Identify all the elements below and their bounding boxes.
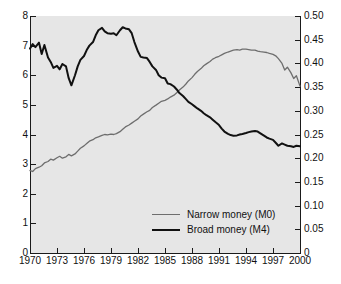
x-axis-tick [30,248,31,253]
y-axis-right-tick [295,135,300,136]
x-axis-tick [219,248,220,253]
legend-line-broad-money-icon [152,229,180,231]
legend-label-narrow-money: Narrow money (M0) [187,209,275,220]
y-axis-left-tick-label: 3 [22,159,28,169]
y-axis-right-tick-label: 0.45 [304,35,323,45]
y-axis-left-tick [31,223,36,224]
y-axis-left-tick-label: 2 [22,189,28,199]
y-axis-left-tick-label: 4 [22,130,28,140]
x-axis-tick [138,248,139,253]
y-axis-right-tick-label: 0.50 [304,11,323,21]
y-axis-right-tick [295,87,300,88]
y-axis-right-tick-label: 0.05 [304,224,323,234]
x-axis-line [30,253,301,254]
x-axis-tick [111,248,112,253]
y-axis-right-tick-label: 0.15 [304,177,323,187]
x-axis-tick [300,248,301,253]
y-axis-right-tick [295,111,300,112]
y-axis-right-tick [295,40,300,41]
y-axis-right-tick-label: 0.40 [304,58,323,68]
chart-figure: 012345678 00.050.100.150.200.250.300.350… [0,0,341,284]
y-axis-left-tick [31,194,36,195]
y-axis-left-tick-label: 7 [22,41,28,51]
y-axis-right-tick [295,182,300,183]
y-axis-right-tick-label: 0.10 [304,201,323,211]
x-axis-tick [192,248,193,253]
y-axis-left-tick [31,46,36,47]
y-axis-left-tick [31,75,36,76]
y-axis-right-tick-label: 0.20 [304,153,323,163]
legend-item-broad-money: Broad money (M4) [152,222,302,237]
y-axis-left-tick-label: 5 [22,100,28,110]
y-axis-left-tick-label: 8 [22,11,28,21]
x-axis-tick [273,248,274,253]
y-axis-left-tick [31,16,36,17]
y-axis-left-tick [31,105,36,106]
y-axis-right-tick-label: 0.35 [304,82,323,92]
x-axis-tick [84,248,85,253]
x-axis-tick [246,248,247,253]
y-axis-left-tick [31,135,36,136]
chart-legend: Narrow money (M0) Broad money (M4) [152,207,302,237]
y-axis-left-tick-label: 1 [22,218,28,228]
y-axis-left-tick [31,164,36,165]
x-axis-tick-label: 2000 [283,256,317,266]
y-axis-right-tick-label: 0.25 [304,130,323,140]
legend-line-narrow-money-icon [152,214,180,215]
x-axis-tick [165,248,166,253]
y-axis-right-tick [295,158,300,159]
y-axis-right-tick-label: 0.30 [304,106,323,116]
legend-label-broad-money: Broad money (M4) [187,224,270,235]
x-axis-tick [57,248,58,253]
y-axis-left-tick-label: 6 [22,70,28,80]
y-axis-right-tick [295,16,300,17]
legend-item-narrow-money: Narrow money (M0) [152,207,302,222]
y-axis-right-tick [295,63,300,64]
